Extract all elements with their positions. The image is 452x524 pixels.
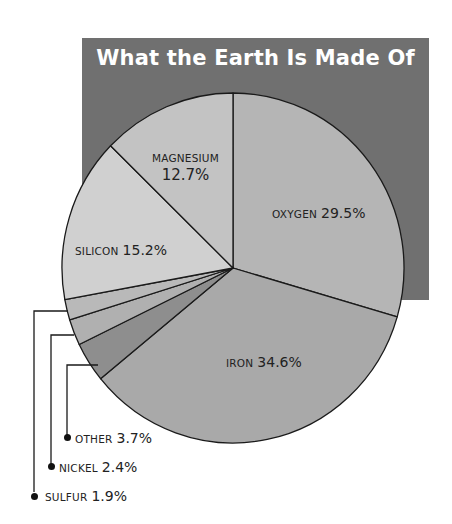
leader-line-other: [67, 365, 98, 437]
leader-line-nickel: [51, 335, 74, 466]
bullet-sulfur: [31, 493, 38, 500]
label-nickel: NICKEL2.4%: [59, 457, 137, 476]
label-magnesium: MAGNESIUM 12.7%: [152, 147, 219, 184]
bullet-nickel: [48, 463, 55, 470]
label-silicon: SILICON15.2%: [75, 240, 167, 259]
label-oxygen: OXYGEN29.5%: [272, 203, 366, 222]
bullet-other: [64, 434, 71, 441]
pie-slices: [62, 93, 404, 443]
label-iron: IRON34.6%: [226, 352, 302, 371]
label-sulfur: SULFUR1.9%: [45, 486, 127, 505]
label-other: OTHER3.7%: [75, 428, 152, 447]
pie-chart: [0, 0, 452, 524]
